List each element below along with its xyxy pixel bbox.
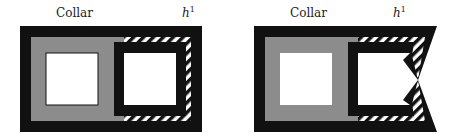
left-panel [20,26,202,132]
collar-diagram [0,0,455,139]
right-panel [254,26,437,132]
